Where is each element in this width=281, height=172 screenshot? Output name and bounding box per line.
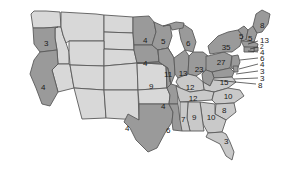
state-arizona[interactable] — [74, 88, 106, 119]
label-oregon: 3 — [44, 40, 48, 48]
state-wyoming[interactable] — [69, 41, 104, 66]
state-california[interactable] — [30, 50, 58, 106]
label-louisiana: 6 — [166, 127, 170, 135]
label-alabama: 9 — [192, 114, 196, 122]
label-maine: 8 — [260, 22, 264, 30]
state-colorado[interactable] — [104, 63, 138, 90]
label-wisconsin: 5 — [161, 38, 165, 46]
us-electoral-map: 3 4 4 4 5 6 11 13 9 23 27 35 8 5 5 12 15… — [0, 0, 281, 172]
state-florida[interactable] — [206, 132, 234, 160]
label-minnesota: 4 — [143, 37, 147, 45]
label-new-york: 35 — [222, 44, 231, 52]
state-north-dakota[interactable] — [104, 15, 133, 33]
state-new-mexico[interactable] — [104, 90, 139, 120]
label-kentucky: 12 — [186, 84, 195, 92]
label-pennsylvania: 27 — [217, 59, 226, 67]
label-new-hampshire: 5 — [248, 35, 252, 43]
state-utah[interactable] — [70, 65, 104, 90]
label-ohio: 23 — [195, 66, 204, 74]
state-delaware[interactable] — [233, 66, 238, 72]
state-montana[interactable] — [61, 12, 104, 43]
label-michigan: 6 — [186, 40, 190, 48]
label-texas: 4 — [125, 125, 129, 133]
label-florida: 3 — [224, 138, 228, 146]
label-vermont: 5 — [239, 33, 243, 41]
label-virginia: 15 — [220, 79, 229, 87]
label-south-carolina-leader: 8 — [258, 82, 262, 90]
label-iowa: 4 — [143, 60, 147, 68]
label-missouri: 9 — [149, 83, 153, 91]
label-arkansas: 4 — [161, 103, 165, 111]
label-north-carolina: 10 — [224, 93, 233, 101]
label-tennessee: 12 — [189, 95, 198, 103]
label-illinois: 11 — [164, 71, 172, 79]
state-south-dakota[interactable] — [104, 32, 134, 50]
state-washington[interactable] — [31, 11, 61, 28]
label-indiana: 13 — [179, 70, 188, 78]
state-oklahoma[interactable] — [138, 88, 170, 104]
label-mississippi: 7 — [181, 116, 185, 124]
label-california: 4 — [41, 84, 45, 92]
label-georgia: 10 — [207, 114, 216, 122]
label-south-carolina: 8 — [222, 107, 226, 115]
